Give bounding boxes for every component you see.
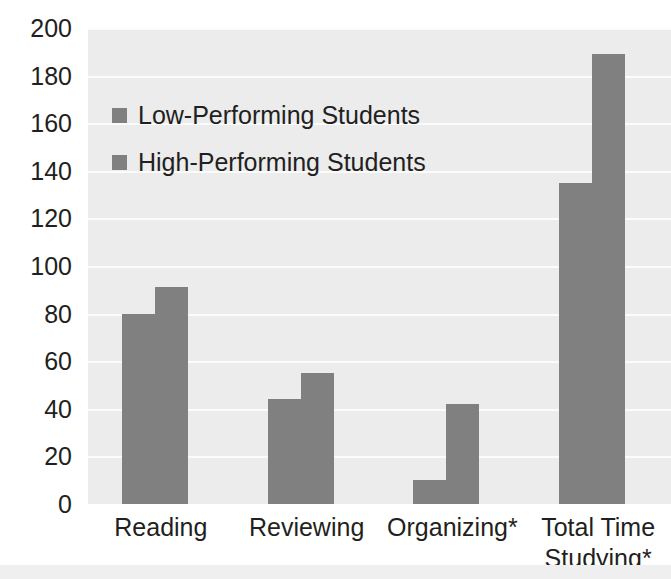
bar-group [413,26,479,504]
y-axis: 200180160140120100806040200 [0,0,82,579]
bar-group [122,26,188,504]
bar-group [268,26,334,504]
y-axis-tick-label: 60 [44,347,72,376]
legend-item-high: High-Performing Students [112,147,426,177]
y-axis-tick-label: 100 [30,252,72,281]
y-axis-tick-label: 200 [30,14,72,43]
category-label-line: Total Time [525,512,671,543]
category-label-line: Reading [88,512,234,543]
bar-high [155,287,188,504]
y-axis-tick-label: 120 [30,204,72,233]
y-axis-tick-label: 80 [44,299,72,328]
bar-high [301,373,334,504]
y-axis-tick-label: 160 [30,109,72,138]
y-axis-tick-label: 20 [44,442,72,471]
chart-legend: Low-Performing Students High-Performing … [112,100,426,194]
bar-low [559,183,592,504]
page-bottom-band [0,565,671,579]
bar-high [446,404,479,504]
chart-figure: 200180160140120100806040200 Low-Performi… [0,0,671,579]
legend-swatch-high-icon [112,155,127,170]
y-axis-tick-label: 140 [30,156,72,185]
x-axis-category-label: Reading [88,512,234,543]
bar-low [413,480,446,504]
x-axis-category-label: Organizing* [380,512,526,543]
bar-group [559,26,625,504]
y-axis-tick-label: 40 [44,394,72,423]
x-axis-category-label: Reviewing [234,512,380,543]
category-label-line: Reviewing [234,512,380,543]
bar-low [122,314,155,504]
y-axis-tick-label: 180 [30,61,72,90]
legend-label-high: High-Performing Students [138,148,426,177]
legend-swatch-low-icon [112,108,127,123]
y-axis-tick-label: 0 [58,490,72,519]
bar-low [268,399,301,504]
bar-high [592,54,625,504]
category-label-line: Organizing* [380,512,526,543]
legend-label-low: Low-Performing Students [138,101,420,130]
legend-item-low: Low-Performing Students [112,100,426,130]
